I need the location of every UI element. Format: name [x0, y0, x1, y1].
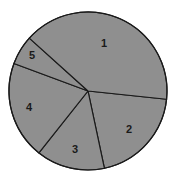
pie-chart: 12345	[0, 0, 175, 181]
pie-slices	[9, 12, 167, 170]
slice-label-4: 4	[26, 101, 33, 113]
slice-label-3: 3	[72, 143, 78, 155]
slice-label-5: 5	[29, 49, 35, 61]
slice-label-1: 1	[101, 37, 107, 49]
slice-label-2: 2	[126, 123, 132, 135]
